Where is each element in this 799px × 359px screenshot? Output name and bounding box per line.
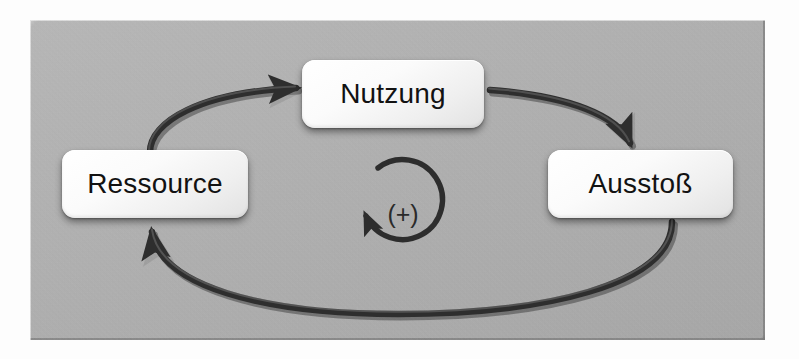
- loop-polarity-marker: (+): [340, 152, 450, 262]
- node-ressource-label: Ressource: [87, 170, 223, 198]
- figure-root: Ressource Nutzung Ausstoß (+): [0, 0, 799, 359]
- node-ausstoss-label: Ausstoß: [588, 170, 692, 198]
- node-nutzung-label: Nutzung: [340, 80, 446, 108]
- node-ausstoss[interactable]: Ausstoß: [548, 150, 733, 218]
- node-nutzung[interactable]: Nutzung: [302, 60, 484, 128]
- loop-polarity-sign: (+): [340, 152, 450, 262]
- node-ressource[interactable]: Ressource: [62, 150, 248, 218]
